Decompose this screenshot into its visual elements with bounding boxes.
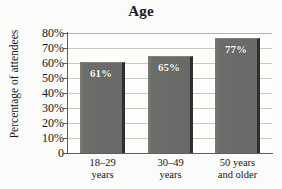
y-axis-tick-label: 0 — [18, 147, 64, 159]
y-axis-tick-mark — [63, 108, 67, 109]
bar-chart: Age Percentage of attendees 61%65%77% 80… — [0, 0, 282, 189]
gridline — [67, 33, 272, 34]
y-axis-tick-mark — [63, 123, 67, 124]
bar-value-label: 61% — [80, 67, 122, 79]
x-axis-line — [66, 153, 273, 154]
y-axis-tick-mark — [63, 138, 67, 139]
y-axis-tick-label: 80% — [18, 27, 64, 39]
x-axis-category-line: 50 years — [198, 157, 278, 169]
y-axis-tick-label: 70% — [18, 42, 64, 54]
y-axis-tick-label: 40% — [18, 87, 64, 99]
y-axis-tick-mark — [63, 63, 67, 64]
y-axis-tick-mark — [63, 33, 67, 34]
y-axis-tick-mark — [63, 153, 67, 154]
y-axis-tick-label: 10% — [18, 132, 64, 144]
bar: 61% — [80, 62, 125, 154]
y-axis-tick-label: 50% — [18, 72, 64, 84]
y-axis-tick-mark — [63, 48, 67, 49]
bar: 65% — [148, 56, 193, 154]
bar-value-label: 77% — [215, 43, 257, 55]
y-axis-tick-label: 30% — [18, 102, 64, 114]
bar-value-label: 65% — [148, 61, 190, 73]
y-axis-tick-mark — [63, 93, 67, 94]
bar: 77% — [215, 38, 260, 154]
y-axis-line — [67, 32, 68, 154]
plot-area: 61%65%77% — [67, 33, 272, 153]
x-axis-category-label: 50 yearsand older — [198, 157, 278, 181]
chart-title: Age — [0, 3, 282, 20]
x-axis-category-line: and older — [198, 169, 278, 181]
y-axis-tick-label: 60% — [18, 57, 64, 69]
y-axis-tick-mark — [63, 78, 67, 79]
y-axis-tick-label: 20% — [18, 117, 64, 129]
